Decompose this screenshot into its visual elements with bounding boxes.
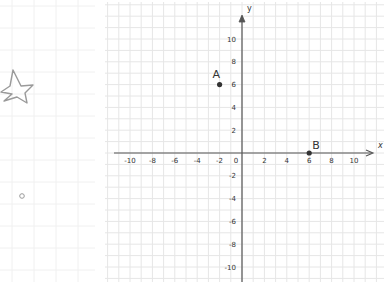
star-doodle-icon xyxy=(1,70,33,103)
small-circle-doodle-icon xyxy=(20,194,25,199)
coordinate-plane-page: xy0-10-8-6-4-2246810108642-2-4-6-8-10AB xyxy=(0,0,384,282)
doodles xyxy=(0,0,384,282)
